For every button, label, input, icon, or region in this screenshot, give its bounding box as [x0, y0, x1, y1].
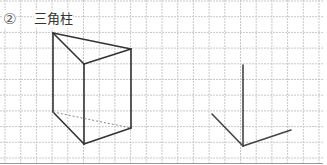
prism-edge: [84, 128, 131, 144]
prism-edge: [53, 112, 84, 144]
axes-guide-drawing: [212, 65, 291, 146]
axis-line: [212, 114, 243, 146]
prism-edge: [84, 49, 131, 64]
prism-edge: [53, 33, 131, 49]
axis-line: [243, 130, 291, 146]
problem-title: 三角柱: [34, 10, 73, 28]
triangular-prism-drawing: [53, 33, 131, 144]
prism-hidden-edge: [53, 112, 131, 128]
grid-paper: ② 三角柱: [0, 0, 327, 165]
problem-number: ②: [3, 10, 16, 28]
